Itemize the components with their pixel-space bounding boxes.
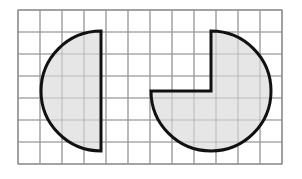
geometry-figure-canvas: Two shaded circular-sector figures on a … <box>0 0 302 179</box>
